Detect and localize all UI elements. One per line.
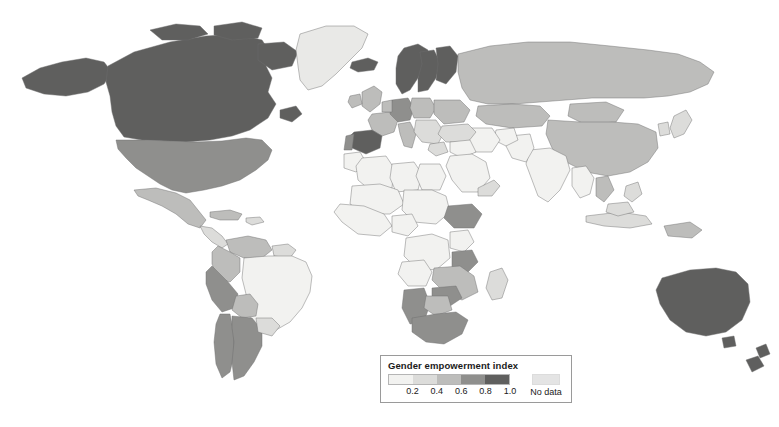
region-turkey[interactable] — [438, 124, 476, 142]
region-tasmania[interactable] — [722, 336, 736, 348]
legend-body: 0.2 0.4 0.6 0.8 1.0 No data — [388, 374, 564, 404]
legend-swatch-nodata — [532, 374, 560, 385]
legend-title: Gender empowerment index — [388, 360, 564, 371]
legend-scale: 0.2 0.4 0.6 0.8 1.0 — [388, 374, 510, 398]
legend-nodata-group: No data — [519, 374, 573, 397]
map-legend: Gender empowerment index 0.2 0.4 0.6 0.8… — [380, 355, 572, 403]
legend-swatch-bin-1 — [413, 375, 437, 384]
legend-nodata-label: No data — [519, 387, 573, 397]
region-benelux[interactable] — [382, 100, 392, 112]
legend-tick-0: 0.2 — [406, 386, 419, 396]
world-map-figure: .ld { stroke:#6e6e6e; stroke-width:0.45;… — [0, 0, 779, 427]
legend-swatch-bin-3 — [461, 375, 485, 384]
legend-tick-3: 0.8 — [479, 386, 492, 396]
legend-swatch-bin-0 — [389, 375, 413, 384]
legend-tick-1: 0.4 — [431, 386, 444, 396]
region-egypt[interactable] — [416, 164, 446, 190]
legend-swatch-bin-2 — [437, 375, 461, 384]
legend-tick-4: 1.0 — [504, 386, 517, 396]
region-korea[interactable] — [658, 122, 670, 136]
legend-swatch-bin-4 — [485, 375, 509, 384]
legend-color-bar — [388, 374, 510, 385]
legend-tick-2: 0.6 — [455, 386, 468, 396]
legend-tick-labels: 0.2 0.4 0.6 0.8 1.0 — [388, 385, 510, 398]
